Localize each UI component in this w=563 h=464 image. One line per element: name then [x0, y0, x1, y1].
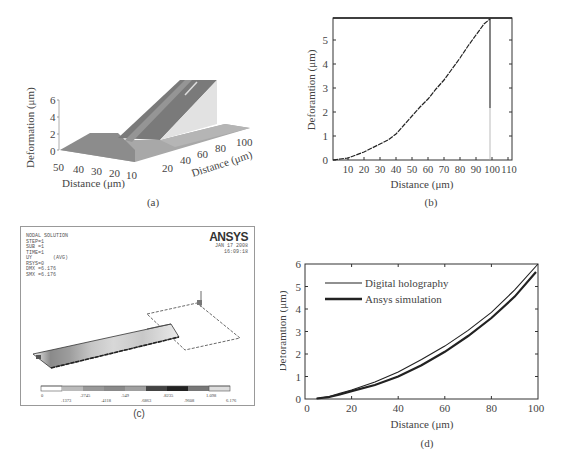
d-y-tick: 2 [296, 348, 302, 360]
d-y-tick: 0 [296, 393, 302, 405]
b-x-label: Distance (μm) [390, 178, 453, 191]
a-x-tick: 10 [126, 169, 138, 181]
d-series-ansys-simulation [317, 272, 536, 399]
b-x-tick: 30 [375, 164, 386, 175]
d-x-tick: 100 [528, 402, 545, 414]
b-x-tick: 40 [391, 164, 402, 175]
a-x-tick: 30 [91, 165, 103, 177]
b-y-tick: 2 [323, 106, 329, 118]
a-x-tick: 50 [53, 161, 65, 173]
caption-a: (a) [138, 196, 168, 208]
b-x-tick: 110 [501, 164, 516, 175]
colorbar-label: .6863 [141, 398, 152, 403]
caption-c: (c) [124, 408, 154, 419]
a-z-tick: 6 [50, 94, 56, 106]
colorbar-label: .1373 [61, 398, 72, 403]
colorbar-label: .4118 [101, 398, 112, 403]
line-chart-b: 0 1 2 3 4 5 10 20 30 40 50 60 70 80 90 1… [280, 0, 563, 210]
b-x-tick: 70 [439, 164, 450, 175]
d-y-tick: 1 [296, 371, 302, 383]
a-z-tick: 0 [50, 145, 56, 157]
a-y-tick: 20 [162, 162, 174, 174]
colorbar-label: .549 [121, 393, 130, 398]
colorbar-label: 6.176 [226, 398, 237, 403]
b-x-tick: 60 [423, 164, 434, 175]
d-y-tick: 6 [296, 258, 302, 270]
b-y-tick: 1 [323, 130, 329, 142]
d-x-tick: 20 [346, 402, 358, 414]
caption-b: (b) [416, 196, 446, 208]
a-y-tick: 40 [180, 154, 192, 166]
a-y-tick: 60 [197, 148, 209, 160]
a-z-label: Deformation (μm) [24, 87, 37, 168]
b-y-tick: 0 [323, 154, 329, 166]
b-y-tick: 5 [323, 34, 329, 46]
d-x-label: Distance (μm) [390, 418, 453, 431]
panel-a: 6 4 2 0 50 40 30 20 10 20 40 60 80 100 D… [0, 60, 280, 210]
d-y-label: Deforamtion (μm) [280, 290, 289, 371]
b-y-tick: 4 [323, 58, 329, 70]
b-y-label: Deforamtion (μm) [305, 49, 318, 130]
colorbar [41, 386, 230, 391]
d-x-tick: 0 [304, 402, 310, 414]
colorbar-label: .2745 [80, 393, 91, 398]
a-y-tick: 80 [215, 142, 227, 154]
legend-digital-holography: Digital holography [365, 277, 449, 289]
caption-d: (d) [412, 437, 442, 449]
legend-ansys-simulation: Ansys simulation [365, 293, 442, 305]
a-z-tick: 2 [50, 128, 56, 140]
d-y-tick: 4 [296, 303, 302, 315]
b-x-tick: 10 [343, 164, 354, 175]
colorbar-label: .8235 [163, 393, 174, 398]
colorbar-label: .9608 [184, 398, 195, 403]
surface-3d-plot: 6 4 2 0 50 40 30 20 10 20 40 60 80 100 D… [0, 60, 280, 210]
b-y-tick: 3 [323, 82, 329, 94]
a-x-tick: 40 [73, 163, 85, 175]
b-x-tick: 100 [484, 164, 500, 175]
colorbar-label: 0 [41, 393, 44, 398]
fem-model: 0 .1373 .2745 .4118 .549 .6863 .8235 .96… [21, 227, 254, 405]
a-y-tick: 100 [236, 136, 253, 148]
d-x-tick: 40 [393, 402, 405, 414]
line-chart-d: 0 1 2 3 4 5 6 0 20 40 60 80 100 Digital … [280, 225, 563, 464]
panel-b: 0 1 2 3 4 5 10 20 30 40 50 60 70 80 90 1… [280, 0, 563, 210]
d-x-tick: 60 [439, 402, 451, 414]
panel-d: 0 1 2 3 4 5 6 0 20 40 60 80 100 Digital … [280, 225, 563, 464]
d-legend: Digital holography Ansys simulation [325, 277, 449, 305]
b-x-tick: 20 [359, 164, 370, 175]
b-x-tick: 50 [407, 164, 418, 175]
panel-c: NODAL SOLUTION STEP=1 SUB =1 TIME=1 UY (… [20, 226, 255, 406]
a-z-tick: 4 [50, 111, 56, 123]
a-x-label: Distance (μm) [62, 177, 125, 190]
d-y-tick: 3 [296, 326, 302, 338]
colorbar-label: 1.098 [206, 393, 217, 398]
b-x-tick: 80 [455, 164, 466, 175]
d-y-tick: 5 [296, 281, 302, 293]
b-series-profile [333, 19, 490, 160]
b-x-tick: 90 [471, 164, 482, 175]
d-x-tick: 80 [486, 402, 498, 414]
